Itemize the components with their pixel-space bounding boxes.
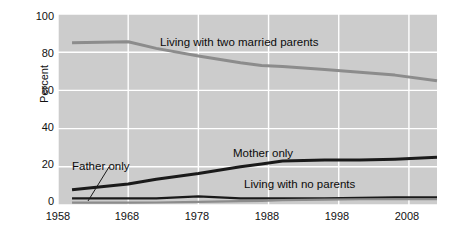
series-label-no-parents: Living with no parents (244, 178, 355, 190)
series-label-father-only: Father only (72, 160, 130, 172)
series-label-mother-only: Mother only (233, 147, 293, 159)
series-label-married-parents: Living with two married parents (160, 36, 319, 48)
chart-container: Percent 100 80 60 40 20 0 1958 1968 1978… (0, 0, 459, 237)
